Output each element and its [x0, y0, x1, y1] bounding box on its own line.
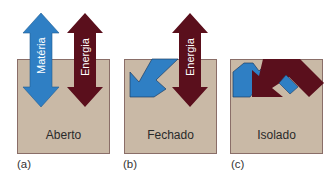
materia-label: Matéria	[35, 36, 47, 74]
energia-label-b: Energia	[184, 37, 196, 76]
arrows-layer: Matéria Energia Energia	[0, 0, 336, 183]
matter-bent-arrow-icon-b	[130, 59, 178, 97]
energia-double-arrow-icon-a: Energia	[67, 13, 103, 107]
materia-double-arrow-icon: Matéria	[23, 13, 59, 107]
energia-label-a: Energia	[79, 37, 91, 76]
